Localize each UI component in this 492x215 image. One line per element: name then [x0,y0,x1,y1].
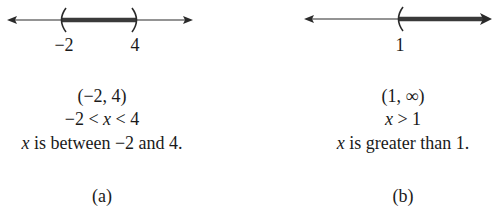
description: x is greater than 1. [337,133,469,153]
description: x is between −2 and 4. [21,133,182,153]
inequality: x > 1 [385,109,421,129]
interval-notation: (−2, 4) [77,86,126,106]
caption-a: (a) [92,186,112,206]
figure-b: 1 (1, ∞) x > 1 x is greater than 1. (b) [300,0,492,215]
tick-label-right: 4 [131,36,140,54]
number-line-b [300,0,492,40]
interval-notation: (1, ∞) [382,86,425,106]
figure-a: −2 4 (−2, 4) −2 < x < 4 x is between −2 … [0,0,205,215]
inequality: −2 < x < 4 [65,109,139,129]
tick-label-left: 1 [396,36,405,54]
tick-label-left: −2 [54,36,73,54]
caption-b: (b) [393,186,414,206]
number-line-a [0,0,205,40]
